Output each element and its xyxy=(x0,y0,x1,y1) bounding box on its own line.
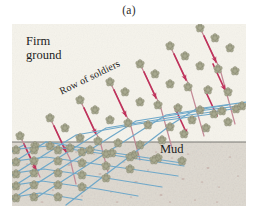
figure-caption: (a) xyxy=(0,4,258,16)
mud-region xyxy=(12,142,246,206)
label-mud: Mud xyxy=(160,142,184,156)
label-firm-ground: Firm ground xyxy=(26,34,61,62)
figure-root: (a) xyxy=(0,0,258,217)
illustration-panel: Firm ground Row of soldiers Mud xyxy=(12,24,246,206)
